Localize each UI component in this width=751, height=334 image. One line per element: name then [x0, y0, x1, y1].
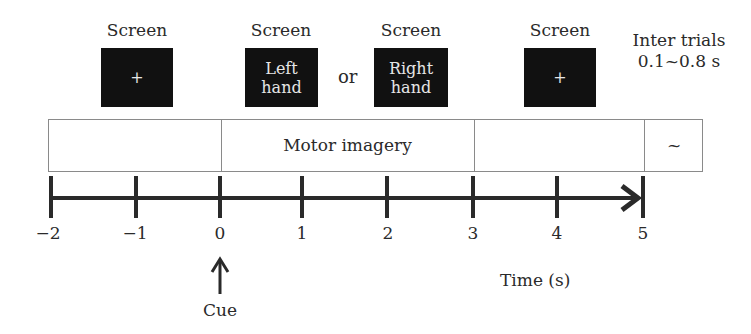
tick-label: 4 — [542, 223, 572, 243]
time-axis — [0, 0, 751, 334]
tick-label: 2 — [373, 223, 403, 243]
tick-label: 0 — [205, 223, 235, 243]
tick-label: −1 — [120, 223, 150, 243]
tick-label: 3 — [458, 223, 488, 243]
axis-title: Time (s) — [500, 270, 570, 290]
tick-label: 1 — [287, 223, 317, 243]
cue-label: Cue — [200, 300, 240, 320]
tick-label: −2 — [33, 223, 63, 243]
tick-label: 5 — [628, 223, 658, 243]
